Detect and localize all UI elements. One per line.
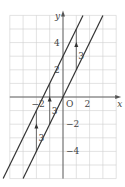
y-tick-label: −4 <box>66 146 80 156</box>
x-tick-label: 2 <box>85 99 91 109</box>
y-tick-label: 4 <box>54 38 60 48</box>
coordinate-graph: 333 −2242−2−4Oxy <box>0 0 125 187</box>
y-tick-label: 2 <box>54 65 60 75</box>
y-axis-label: y <box>54 11 61 21</box>
y-axis-arrow-icon <box>61 10 65 16</box>
y-tick-label: −2 <box>66 119 79 129</box>
translation-label: 3 <box>78 51 84 61</box>
translation-label: 3 <box>52 106 58 116</box>
translation-label: 3 <box>38 133 44 143</box>
origin-label: O <box>66 99 73 109</box>
x-tick-label: −2 <box>31 99 44 109</box>
x-axis-label: x <box>117 99 122 109</box>
